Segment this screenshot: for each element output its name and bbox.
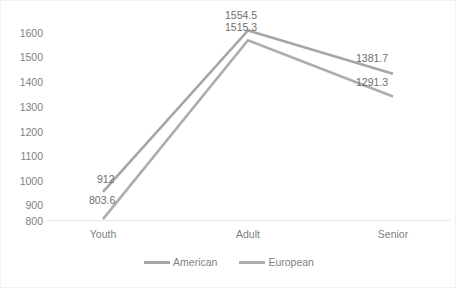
legend-swatch-icon xyxy=(239,261,265,264)
y-axis-tick-label: 1000 xyxy=(3,176,43,187)
data-label-american-senior: 1381.7 xyxy=(356,53,388,64)
y-axis-tick-label: 1400 xyxy=(3,77,43,88)
series-lines xyxy=(47,19,449,220)
x-axis-tick-label-adult: Adult xyxy=(188,229,308,240)
y-axis-tick-label: 1600 xyxy=(3,28,43,39)
plot-area xyxy=(47,19,449,220)
y-axis-tick-label: 1200 xyxy=(3,127,43,138)
data-label-european-senior: 1291.3 xyxy=(356,77,388,88)
data-label-american-youth: 912 xyxy=(97,174,115,185)
y-axis: 1600 1500 1400 1300 1200 1100 1000 900 8… xyxy=(1,1,43,288)
y-axis-tick-label: 1100 xyxy=(3,151,43,162)
x-axis: Youth Adult Senior xyxy=(47,229,449,245)
series-line-european xyxy=(103,40,393,219)
y-axis-tick-label: 900 xyxy=(3,200,43,211)
data-label-american-adult: 1554.5 xyxy=(225,10,257,21)
series-line-american xyxy=(103,30,393,191)
data-label-european-youth: 803.6 xyxy=(89,195,115,206)
legend-label-american: American xyxy=(173,257,217,268)
x-axis-tick-label-senior: Senior xyxy=(333,229,453,240)
x-axis-tick-label-youth: Youth xyxy=(43,229,163,240)
y-axis-tick-label: 1300 xyxy=(3,102,43,113)
chart-legend: American European xyxy=(1,257,456,268)
line-chart: 1600 1500 1400 1300 1200 1100 1000 900 8… xyxy=(0,0,456,288)
y-axis-tick-label: 800 xyxy=(3,216,43,227)
legend-swatch-icon xyxy=(144,261,170,264)
y-axis-tick-label: 1500 xyxy=(3,52,43,63)
legend-entry-american[interactable]: American xyxy=(144,257,217,268)
legend-label-european: European xyxy=(268,257,314,268)
x-axis-line xyxy=(47,220,451,221)
data-label-european-adult: 1515.3 xyxy=(225,22,257,33)
legend-entry-european[interactable]: European xyxy=(239,257,314,268)
